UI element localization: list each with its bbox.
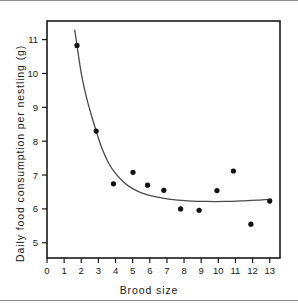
data-point-marker bbox=[74, 43, 79, 48]
y-tick-label: 11 bbox=[28, 34, 38, 45]
x-tick-label: 7 bbox=[164, 265, 169, 276]
data-point-marker bbox=[130, 170, 135, 175]
x-tick-label: 3 bbox=[96, 265, 101, 276]
y-tick-label: 7 bbox=[33, 170, 38, 181]
y-tick-label: 8 bbox=[33, 136, 38, 147]
fitted-curve bbox=[75, 30, 272, 201]
data-point-marker bbox=[145, 183, 150, 188]
x-tick-label: 4 bbox=[113, 265, 118, 276]
data-point-marker bbox=[267, 199, 272, 204]
x-tick-label: 8 bbox=[181, 265, 186, 276]
x-tick-label: 6 bbox=[147, 265, 152, 276]
data-point-marker bbox=[231, 168, 236, 173]
data-point-marker bbox=[178, 206, 183, 211]
data-point-marker bbox=[111, 181, 116, 186]
data-point-marker bbox=[94, 128, 99, 133]
x-tick-label: 2 bbox=[79, 265, 84, 276]
x-tick-label: 13 bbox=[264, 265, 275, 276]
y-tick-label: 6 bbox=[33, 203, 38, 214]
x-tick-label: 5 bbox=[130, 265, 135, 276]
x-tick-label: 11 bbox=[231, 265, 241, 276]
plot-frame bbox=[47, 21, 280, 258]
x-tick-label: 9 bbox=[199, 265, 204, 276]
x-tick-label: 1 bbox=[61, 265, 66, 276]
y-tick-label: 10 bbox=[27, 68, 38, 79]
x-tick-label: 0 bbox=[44, 265, 49, 276]
plot-canvas: 012345678910111213567891011 bbox=[0, 0, 298, 308]
x-axis-label: Brood size bbox=[0, 284, 298, 296]
data-point-marker bbox=[214, 188, 219, 193]
y-tick-label: 9 bbox=[33, 102, 38, 113]
scatter-plot-figure: 012345678910111213567891011 Daily food c… bbox=[0, 0, 298, 308]
y-tick-label: 5 bbox=[33, 237, 38, 248]
x-tick-label: 12 bbox=[247, 265, 258, 276]
data-point-marker bbox=[161, 188, 166, 193]
data-point-marker bbox=[197, 208, 202, 213]
x-tick-label: 10 bbox=[213, 265, 224, 276]
y-axis-label: Daily food consumption per nestling (g) bbox=[14, 45, 26, 262]
data-point-marker bbox=[248, 222, 253, 227]
